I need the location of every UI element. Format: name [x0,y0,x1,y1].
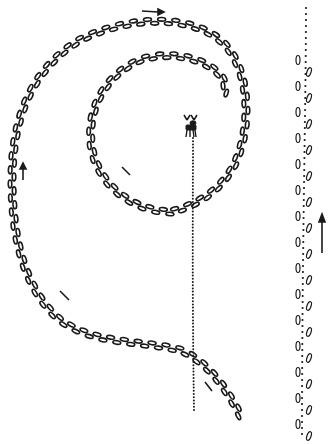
hoof-print-icon [245,92,249,100]
hoof-print-icon [220,380,228,389]
track-dot [192,275,194,277]
arrow-right-icon [142,9,164,15]
hoof-print-icon [67,321,76,328]
hoof-print-icon [12,159,16,167]
hoof-print-icon [15,131,20,140]
track-dot [192,329,194,331]
hoof-print-icon [221,388,228,397]
hoof-print-icon [296,186,300,195]
track-dot [192,140,194,142]
track-dot [192,284,194,286]
hoof-print-icon [246,107,250,115]
track-dot [301,421,303,423]
track-dot [192,239,194,241]
hoof-print-icon [9,208,13,216]
hoof-print-icon [96,160,103,169]
track-dot [192,355,194,357]
hoof-print-icon [71,41,80,48]
hoof-print-icon [159,207,167,212]
hoof-print-icon [127,342,135,347]
hoof-print-icon [170,52,178,56]
arrow-up-left-icon [60,291,69,300]
track-dot [301,367,303,369]
hoof-print-icon [138,205,147,211]
hoof-print-icon [296,212,300,221]
track-dot [304,139,306,141]
hoof-print-icon [8,194,12,202]
track-dot [192,361,194,363]
track-dot [303,205,305,207]
hoof-print-icon [170,206,179,212]
track-dot [301,373,303,375]
track-dot [192,159,194,161]
hoof-print-icon [306,145,313,155]
hoof-print-icon [162,343,170,348]
hoof-print-icon [306,223,313,233]
hoof-print-icon [296,82,300,91]
track-dot [302,265,304,267]
hoof-print-icon [133,199,142,206]
track-dot [192,255,194,257]
hoof-print-icon [80,327,89,333]
track-dot [193,396,195,398]
hoof-print-icon [215,38,223,46]
hoof-print-icon [59,321,68,328]
hoof-print-icon [203,367,211,375]
track-dot [192,143,194,145]
hoof-print-icon [13,236,18,245]
track-dot [192,271,194,273]
track-dot [305,61,307,63]
track-dot [193,390,195,392]
track-dot [192,233,194,235]
track-dot [192,294,194,296]
hoof-print-icon [143,18,151,22]
track-dot [302,295,304,297]
hoof-print-icon [88,113,93,122]
hoof-print-icon [27,84,34,93]
track-dot [192,191,194,193]
hoof-print-icon [149,56,157,61]
hoof-print-icon [238,148,244,157]
track-dot [192,163,194,165]
hoof-print-icon [12,173,16,181]
hoof-print-icon [125,199,134,206]
track-dot [192,147,194,149]
track-dot [192,204,194,206]
track-dot [192,364,194,366]
moose-track-diagram [0,0,328,444]
hoof-print-icon [27,92,34,101]
hoof-print-icon [243,78,248,87]
track-dot [301,313,303,315]
track-dot [304,97,306,99]
hoof-print-icon [60,49,68,57]
hoof-print-icon [34,72,42,81]
track-dot [192,313,194,315]
track-dot [304,109,306,111]
track-dot [303,157,305,159]
hoof-print-icon [296,134,300,143]
hoof-print-icon [197,57,206,63]
hoof-print-icon [113,73,121,81]
track-dot [192,211,194,213]
hoof-print-icon [164,22,172,26]
track-dot [302,253,304,255]
hoof-print-icon [16,249,22,258]
hoof-print-icon [296,368,300,377]
arrow-up-left-icon [205,382,212,391]
hoof-print-icon [121,192,130,200]
hoof-print-icon [136,59,145,65]
hoof-print-icon [178,23,187,28]
hoof-print-icon [151,21,159,25]
track-dot [192,156,194,158]
hoof-print-icon [87,141,92,149]
hoof-print-icon [217,177,225,185]
hoof-print-icon [109,27,118,33]
track-dot [304,121,306,123]
hoof-print-icon [221,82,225,90]
hoof-print-icon [296,264,300,273]
track-dot [305,7,307,9]
track-dot [302,229,304,231]
track-dot [193,399,195,401]
track-dot [192,185,194,187]
track-dot [192,332,194,334]
